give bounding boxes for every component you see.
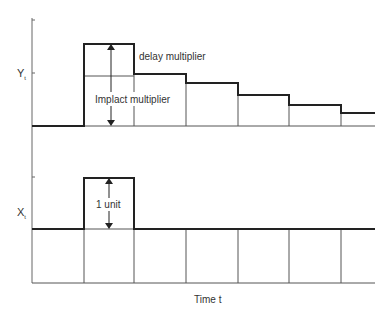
multiplier-diagram: Yt Xt delay multiplier Implact multiplie… [0, 0, 389, 312]
xt-pulse-line [32, 178, 375, 229]
time-axis-label: Time t [194, 294, 222, 305]
one-unit-label: 1 unit [96, 199, 121, 210]
y-axis-label: Yt [17, 67, 26, 81]
x-axis-label: Xt [17, 206, 26, 220]
lower-grid [32, 229, 375, 283]
impact-multiplier-label: Implact multiplier [95, 94, 171, 105]
delay-multiplier-label: delay multiplier [139, 51, 206, 62]
